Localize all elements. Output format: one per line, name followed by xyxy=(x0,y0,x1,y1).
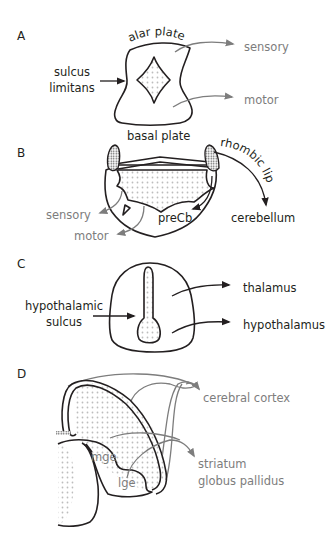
neural-tube-diagram: A alar plate basal plate sulcus limitans… xyxy=(0,0,329,545)
mge-label: mge xyxy=(91,450,117,464)
sensory-arrow-a xyxy=(175,42,233,52)
panel-letter-c: C xyxy=(17,257,25,271)
basal-plate-label: basal plate xyxy=(127,129,190,143)
central-canal xyxy=(137,57,170,103)
motor-label-a: motor xyxy=(244,93,279,107)
lge-label: lge xyxy=(118,476,136,490)
cortex-arrow-4 xyxy=(166,384,182,480)
panel-letter-d: D xyxy=(17,367,26,381)
hypothalamic-sulcus-label-line1: hypothalamic xyxy=(25,299,103,313)
cortex-arrow-2 xyxy=(130,383,196,404)
cerebral-cortex-label: cerebral cortex xyxy=(203,391,290,405)
panel-a: A alar plate basal plate sulcus limitans… xyxy=(17,24,289,143)
hypothalamus-arrow xyxy=(172,322,229,333)
striatum-label: striatum xyxy=(198,457,246,471)
cerebellum-label: cerebellum xyxy=(231,211,295,225)
hypothalamus-label: hypothalamus xyxy=(243,318,325,332)
sulcus-limitans-label-line1: sulcus xyxy=(54,65,90,79)
thalamus-label: thalamus xyxy=(243,281,297,295)
sensory-label-a: sensory xyxy=(244,40,289,54)
ventricle-lip-fill xyxy=(56,431,70,435)
precb-label: preCb xyxy=(158,211,192,225)
panel-d: D cerebral cortex striatum globus pallid… xyxy=(17,367,290,526)
hypothalamic-sulcus-label-line2: sulcus xyxy=(46,315,82,329)
panel-letter-b: B xyxy=(17,146,25,160)
panel-b: B sensory motor rhombic lip cerebellum p… xyxy=(17,135,295,243)
rhombic-lip-left xyxy=(107,145,119,171)
sulcus-limitans-label-line2: limitans xyxy=(49,81,95,95)
thalamus-arrow xyxy=(172,285,229,296)
subpallium-fill xyxy=(58,440,74,525)
rhombic-lip-label: rhombic lip xyxy=(220,135,278,184)
panel-letter-a: A xyxy=(17,29,26,43)
sensory-label-b: sensory xyxy=(46,208,91,222)
globus-pallidus-label: globus pallidus xyxy=(198,474,284,488)
motor-label-b: motor xyxy=(74,229,109,243)
panel-c: C hypothalamic sulcus thalamus hypothala… xyxy=(17,257,325,352)
alar-plate-label: alar plate xyxy=(126,24,187,44)
third-ventricle xyxy=(138,267,161,343)
rhombic-lip-right xyxy=(205,145,219,171)
motor-arrow-a xyxy=(173,96,232,107)
